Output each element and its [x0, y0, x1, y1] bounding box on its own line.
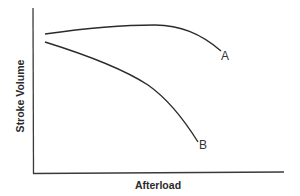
x-axis-title: Afterload: [135, 179, 181, 191]
afterload-stroke-volume-chart: A B Afterload Stroke Volume: [0, 0, 300, 196]
x-axis: [33, 172, 284, 174]
curve-a: [45, 25, 221, 51]
y-axis: [33, 8, 34, 174]
curve-a-label: A: [221, 49, 229, 63]
curve-b: [45, 42, 198, 142]
y-axis-title: Stroke Volume: [14, 59, 26, 132]
curve-b-label: B: [199, 138, 207, 152]
